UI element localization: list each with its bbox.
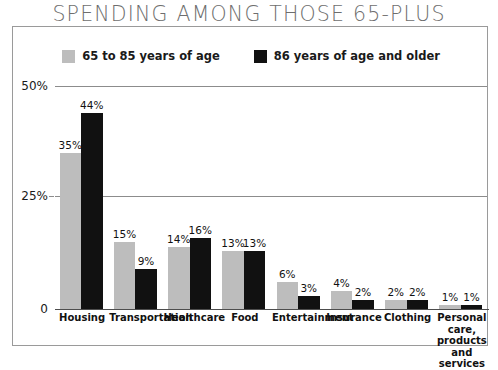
chart-frame: 65 to 85 years of age 86 years of age an…	[12, 26, 488, 346]
legend-label: 65 to 85 years of age	[82, 49, 220, 63]
legend-item-86-and-older[interactable]: 86 years of age and older	[254, 49, 440, 63]
axis-baseline	[55, 309, 489, 310]
x-axis-label: Transportation	[109, 312, 163, 324]
bar[interactable]: 13%	[222, 251, 244, 309]
bar[interactable]: 15%	[114, 242, 136, 309]
bar[interactable]: 9%	[135, 269, 157, 309]
bar-value-label: 14%	[167, 233, 190, 245]
bar-value-label: 44%	[80, 99, 103, 111]
bar[interactable]: 35%	[60, 153, 82, 309]
bar[interactable]: 14%	[168, 247, 190, 309]
tick-mark-25	[49, 196, 54, 197]
bar-value-label: 15%	[113, 228, 136, 240]
bar-value-label: 13%	[221, 237, 244, 249]
bar-groups: 35%44%15%9%14%16%13%13%6%3%4%2%2%2%1%1%	[55, 86, 489, 309]
bar[interactable]: 2%	[352, 300, 374, 309]
x-axis-label: Clothing	[381, 312, 435, 324]
legend-label: 86 years of age and older	[274, 49, 440, 63]
x-axis-labels: HousingTransportationHealthcareFoodEnter…	[55, 312, 489, 352]
y-axis-label-50: 50%	[21, 79, 48, 93]
bar[interactable]: 2%	[407, 300, 429, 309]
y-axis-label-0: 0	[40, 302, 48, 316]
page-title: SPENDING AMONG THOSE 65-PLUS	[0, 2, 498, 26]
bar[interactable]: 44%	[81, 113, 103, 309]
bar[interactable]: 6%	[277, 282, 299, 309]
bar-value-label: 16%	[189, 224, 212, 236]
bar-group: 35%44%	[55, 86, 109, 309]
bar[interactable]: 16%	[190, 238, 212, 309]
x-axis-label: Personal care, products and services	[435, 312, 489, 370]
bar-group: 4%2%	[326, 86, 380, 309]
bar-value-label: 2%	[387, 286, 404, 298]
bar-value-label: 13%	[243, 237, 266, 249]
bar-value-label: 1%	[463, 291, 480, 303]
bar-group: 13%13%	[218, 86, 272, 309]
bar-value-label: 2%	[409, 286, 426, 298]
bar-value-label: 9%	[138, 255, 155, 267]
bar-value-label: 3%	[300, 282, 317, 294]
bar[interactable]: 13%	[244, 251, 266, 309]
bar[interactable]: 2%	[385, 300, 407, 309]
legend-item-65-to-85[interactable]: 65 to 85 years of age	[62, 49, 220, 63]
bar[interactable]: 1%	[439, 305, 461, 309]
legend-swatch-icon	[62, 50, 75, 63]
bar[interactable]: 4%	[331, 291, 353, 309]
bar-group: 1%1%	[435, 86, 489, 309]
x-axis-label: Food	[218, 312, 272, 324]
x-axis-label: Entertainment	[272, 312, 326, 324]
chart-legend: 65 to 85 years of age 86 years of age an…	[13, 49, 489, 63]
bar-group: 6%3%	[272, 86, 326, 309]
x-axis-label: Housing	[55, 312, 109, 324]
bar-value-label: 35%	[59, 139, 82, 151]
bar-value-label: 6%	[279, 268, 296, 280]
plot-area: 50% 25% 0 35%44%15%9%14%16%13%13%6%3%4%2…	[55, 86, 489, 309]
bar-value-label: 4%	[333, 277, 350, 289]
y-axis-label-25: 25%	[21, 189, 48, 203]
bar-group: 15%9%	[109, 86, 163, 309]
bar[interactable]: 1%	[461, 305, 483, 309]
bar-group: 14%16%	[164, 86, 218, 309]
legend-swatch-icon	[254, 50, 267, 63]
bar[interactable]: 3%	[298, 296, 320, 309]
bar-group: 2%2%	[381, 86, 435, 309]
bar-value-label: 1%	[442, 291, 459, 303]
x-axis-label: Healthcare	[164, 312, 218, 324]
x-axis-label: Insurance	[326, 312, 380, 324]
bar-value-label: 2%	[355, 286, 372, 298]
